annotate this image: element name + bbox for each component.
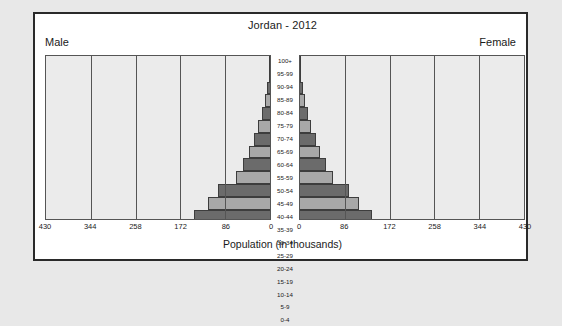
gridline-172 (390, 56, 391, 219)
age-label-50-54: 50-54 (271, 185, 299, 198)
age-label-20-24: 20-24 (271, 262, 299, 275)
age-label-90-94: 90-94 (271, 81, 299, 94)
x-tick-label: 344 (474, 222, 487, 231)
age-label-45-49: 45-49 (271, 197, 299, 210)
female-bar-85-89 (300, 94, 305, 107)
female-x-axis: 086172258344430 (299, 222, 525, 234)
age-label-40-44: 40-44 (271, 210, 299, 223)
x-tick-label: 86 (222, 222, 230, 231)
bar-row (300, 146, 524, 159)
bar-row (46, 120, 270, 133)
age-label-55-59: 55-59 (271, 172, 299, 185)
bar-row (300, 82, 524, 95)
age-label-35-39: 35-39 (271, 223, 299, 236)
bar-row (300, 56, 524, 69)
age-label-15-19: 15-19 (271, 275, 299, 288)
female-bar-55-59 (300, 171, 333, 184)
female-bar-40-44 (300, 210, 372, 220)
age-group-axis: 100+95-9990-9485-8980-8475-7970-7465-696… (271, 55, 299, 220)
x-axis-title: Population (in thousands) (35, 238, 530, 250)
bar-row (300, 133, 524, 146)
female-plot-panel (299, 55, 525, 220)
age-label-80-84: 80-84 (271, 107, 299, 120)
bar-row (46, 82, 270, 95)
age-label-65-69: 65-69 (271, 146, 299, 159)
age-label-60-64: 60-64 (271, 159, 299, 172)
male-bar-rows (46, 56, 270, 219)
bar-row (300, 94, 524, 107)
male-bar-80-84 (262, 107, 270, 120)
female-bar-45-49 (300, 197, 359, 210)
x-tick-label: 172 (383, 222, 396, 231)
bar-row (46, 94, 270, 107)
x-tick-label: 258 (129, 222, 142, 231)
female-bar-75-79 (300, 120, 311, 133)
age-label-95-99: 95-99 (271, 68, 299, 81)
bar-row (46, 56, 270, 69)
gridline-86 (225, 56, 226, 219)
age-label-70-74: 70-74 (271, 133, 299, 146)
x-tick-label: 344 (84, 222, 97, 231)
male-bar-65-69 (249, 146, 270, 159)
bar-row (300, 210, 524, 220)
female-bar-60-64 (300, 158, 326, 171)
age-label-5-9: 5-9 (271, 301, 299, 314)
female-bar-rows (300, 56, 524, 219)
gridline-258 (434, 56, 435, 219)
male-bar-95-99 (269, 69, 270, 82)
female-bar-65-69 (300, 146, 320, 159)
male-bar-85-89 (265, 94, 270, 107)
bar-row (300, 120, 524, 133)
female-bar-70-74 (300, 133, 316, 146)
gridline-344 (479, 56, 480, 219)
bar-row (46, 69, 270, 82)
male-series-label: Male (45, 36, 69, 48)
x-tick-label: 172 (174, 222, 187, 231)
x-tick-label: 258 (428, 222, 441, 231)
gridline-344 (91, 56, 92, 219)
x-tick-label: 0 (269, 222, 273, 231)
female-bar-80-84 (300, 107, 308, 120)
bar-row (46, 197, 270, 210)
chart-title: Jordan - 2012 (35, 19, 530, 31)
chart-figure: Jordan - 2012 Male Female 100+95-9990-94… (33, 12, 528, 261)
male-bar-100+ (269, 56, 270, 69)
bar-row (300, 158, 524, 171)
age-label-0-4: 0-4 (271, 314, 299, 326)
female-bar-100+ (300, 56, 301, 69)
bar-row (300, 197, 524, 210)
male-bar-70-74 (254, 133, 270, 146)
male-bar-60-64 (243, 158, 270, 171)
female-series-label: Female (479, 36, 516, 48)
bar-row (46, 107, 270, 120)
female-bar-50-54 (300, 184, 349, 197)
male-bar-40-44 (194, 210, 270, 220)
age-label-25-29: 25-29 (271, 249, 299, 262)
age-label-100+: 100+ (271, 55, 299, 68)
bar-row (46, 184, 270, 197)
x-tick-label: 430 (39, 222, 52, 231)
gridline-86 (345, 56, 346, 219)
male-bar-90-94 (267, 82, 270, 95)
male-bar-55-59 (236, 171, 270, 184)
age-label-85-89: 85-89 (271, 94, 299, 107)
bar-row (300, 69, 524, 82)
bar-row (300, 171, 524, 184)
male-plot-panel (45, 55, 271, 220)
bar-row (46, 171, 270, 184)
bar-row (46, 210, 270, 220)
x-tick-label: 430 (519, 222, 532, 231)
age-label-10-14: 10-14 (271, 288, 299, 301)
bar-row (46, 133, 270, 146)
bar-row (300, 184, 524, 197)
female-bar-95-99 (300, 69, 301, 82)
male-x-axis: 086172258344430 (45, 222, 271, 234)
male-bar-45-49 (208, 197, 271, 210)
male-bar-75-79 (258, 120, 270, 133)
gridline-258 (136, 56, 137, 219)
age-label-75-79: 75-79 (271, 120, 299, 133)
female-bar-90-94 (300, 82, 303, 95)
bar-row (46, 158, 270, 171)
bar-row (46, 146, 270, 159)
